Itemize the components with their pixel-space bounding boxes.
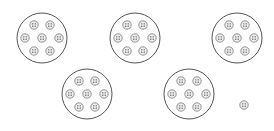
button-hole: [179, 108, 180, 109]
button-rim: [233, 34, 241, 42]
button-hole: [182, 105, 183, 106]
button-hole: [128, 49, 129, 50]
button-hole: [35, 52, 36, 53]
button-hole: [243, 52, 244, 53]
button-hole: [195, 82, 196, 83]
button-hole: [179, 105, 180, 106]
button-hole: [227, 52, 228, 53]
button-hole: [238, 36, 239, 37]
button-hole: [26, 36, 27, 37]
button-rim: [168, 90, 176, 98]
button-hole: [23, 39, 24, 40]
button-rim: [250, 34, 258, 42]
button-icon: [139, 47, 147, 55]
button-hole: [246, 49, 247, 50]
button-rim: [240, 101, 248, 109]
button-rim: [139, 47, 147, 55]
button-hole: [48, 23, 49, 24]
button-rim: [30, 47, 38, 55]
group-circle: [212, 13, 262, 63]
button-hole: [68, 95, 69, 96]
button-hole: [96, 79, 97, 80]
button-icon: [168, 90, 176, 98]
button-icon: [30, 47, 38, 55]
button-hole: [88, 95, 89, 96]
button-icon: [38, 34, 46, 42]
button-icon: [66, 90, 74, 98]
button-hole: [235, 36, 236, 37]
button-icon: [91, 77, 99, 85]
button-icon: [233, 34, 241, 42]
button-hole: [150, 36, 151, 37]
groups-diagram: [0, 0, 274, 131]
button-hole: [243, 23, 244, 24]
button-hole: [170, 95, 171, 96]
button-hole: [173, 92, 174, 93]
button-hole: [93, 108, 94, 109]
button-icon: [114, 34, 122, 42]
button-hole: [48, 26, 49, 27]
button-icon: [75, 103, 83, 111]
button-hole: [43, 39, 44, 40]
button-hole: [48, 49, 49, 50]
button-hole: [93, 82, 94, 83]
button-hole: [246, 26, 247, 27]
button-rim: [216, 34, 224, 42]
button-hole: [26, 39, 27, 40]
button-hole: [230, 26, 231, 27]
button-hole: [35, 49, 36, 50]
button-rim: [139, 21, 147, 29]
button-hole: [238, 39, 239, 40]
button-rim: [114, 34, 122, 42]
button-hole: [245, 103, 246, 104]
button-hole: [182, 82, 183, 83]
button-hole: [128, 52, 129, 53]
group-circle: [17, 13, 67, 63]
button-hole: [125, 49, 126, 50]
button-hole: [227, 26, 228, 27]
button-icon: [241, 21, 249, 29]
button-hole: [141, 52, 142, 53]
button-hole: [77, 82, 78, 83]
button-rim: [55, 34, 63, 42]
button-rim: [241, 21, 249, 29]
button-rim: [225, 21, 233, 29]
button-icon: [46, 47, 54, 55]
button-hole: [227, 23, 228, 24]
button-hole: [190, 92, 191, 93]
button-hole: [51, 52, 52, 53]
button-icon: [131, 34, 139, 42]
button-icon: [123, 21, 131, 29]
button-hole: [198, 105, 199, 106]
button-hole: [48, 52, 49, 53]
button-rim: [123, 47, 131, 55]
button-hole: [80, 82, 81, 83]
button-rim: [75, 77, 83, 85]
button-rim: [193, 103, 201, 111]
button-hole: [187, 95, 188, 96]
button-hole: [35, 23, 36, 24]
button-hole: [187, 92, 188, 93]
button-hole: [246, 23, 247, 24]
button-hole: [153, 39, 154, 40]
button-icon: [30, 21, 38, 29]
button-rim: [225, 47, 233, 55]
button-hole: [80, 79, 81, 80]
button-rim: [21, 34, 29, 42]
button-hole: [227, 49, 228, 50]
group-circle: [164, 69, 214, 119]
button-rim: [30, 21, 38, 29]
button-hole: [32, 26, 33, 27]
button-hole: [133, 36, 134, 37]
button-hole: [255, 39, 256, 40]
button-hole: [77, 79, 78, 80]
button-hole: [235, 39, 236, 40]
button-hole: [207, 95, 208, 96]
button-hole: [141, 23, 142, 24]
button-hole: [170, 92, 171, 93]
button-hole: [195, 79, 196, 80]
button-hole: [116, 36, 117, 37]
button-hole: [218, 39, 219, 40]
button-icon: [83, 90, 91, 98]
button-rim: [66, 90, 74, 98]
